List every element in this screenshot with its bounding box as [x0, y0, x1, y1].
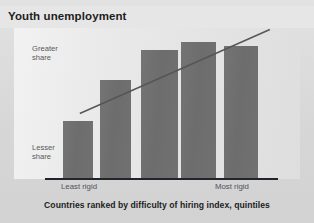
bar-quintile-2 — [100, 80, 131, 178]
x-axis-tick-most-rigid: Most rigid — [215, 182, 249, 191]
chart-caption: Countries ranked by difficulty of hiring… — [0, 200, 314, 210]
chart-figure: Youth unemployment Greater share Lesser … — [0, 0, 314, 223]
y-axis-top-label: Greater share — [32, 44, 58, 62]
bar-quintile-1 — [63, 121, 93, 178]
x-axis-line — [45, 178, 278, 180]
bar-quintile-3 — [141, 50, 178, 178]
x-axis-tick-least-rigid: Least rigid — [61, 182, 97, 191]
page-title: Youth unemployment — [8, 10, 127, 22]
plot-area: Greater share Lesser share — [14, 28, 300, 179]
bar-quintile-4 — [181, 42, 216, 178]
bar-quintile-5 — [224, 46, 258, 178]
y-axis-bottom-label: Lesser share — [32, 143, 55, 161]
